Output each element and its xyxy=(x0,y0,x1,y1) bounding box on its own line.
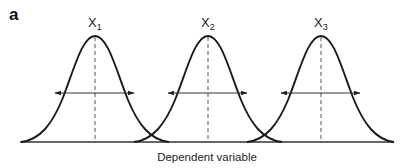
distribution-x1: X1 xyxy=(21,15,169,142)
peak-label-x1: X1 xyxy=(88,15,102,32)
distribution-x3: X3 xyxy=(247,15,394,142)
panel-label: a xyxy=(9,5,19,24)
distribution-diagram: a X1 X2 X3 Dependent variable xyxy=(0,0,413,168)
x-axis-label: Dependent variable xyxy=(157,151,257,163)
distribution-x2: X2 xyxy=(134,15,282,142)
peak-label-x3: X3 xyxy=(314,15,328,32)
peak-label-x2: X2 xyxy=(201,15,215,32)
